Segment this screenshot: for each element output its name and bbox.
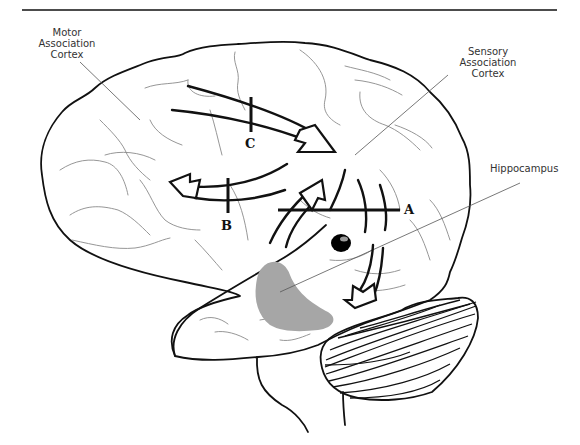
hippocampus-region	[256, 262, 334, 331]
label-line: Association	[452, 57, 524, 68]
cerebrum-outline	[41, 42, 470, 360]
label-line: Association	[32, 38, 102, 49]
lesion-label-c: C	[245, 136, 255, 151]
label-sensory-association-cortex: Sensory Association Cortex	[452, 46, 524, 79]
lesion-label-b: B	[221, 218, 232, 233]
label-line: Cortex	[32, 49, 102, 60]
pathway-b	[170, 164, 287, 213]
lesion-label-a: A	[404, 202, 414, 217]
brainstem-right	[343, 392, 345, 425]
cerebellum	[321, 298, 478, 400]
sensory-leader-line	[355, 75, 448, 155]
label-line: Cortex	[452, 68, 524, 79]
brainstem	[257, 357, 308, 432]
amygdala-highlight	[340, 237, 348, 242]
label-motor-association-cortex: Motor Association Cortex	[32, 27, 102, 60]
sulci	[60, 50, 450, 341]
amygdala-dot	[331, 234, 351, 252]
label-line: Motor	[32, 27, 102, 38]
label-line: Sensory	[452, 46, 524, 57]
label-hippocampus: Hippocampus	[490, 163, 570, 174]
motor-leader-line	[80, 62, 140, 120]
